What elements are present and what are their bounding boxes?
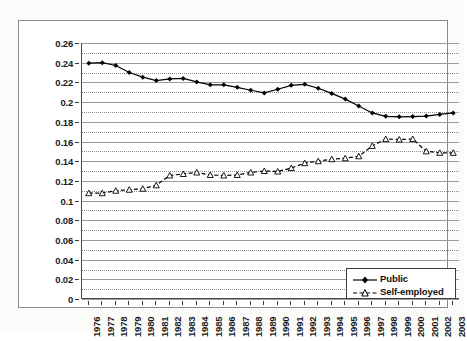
data-point-marker-diamond: [356, 104, 361, 109]
x-axis-tick-label: 1987: [240, 317, 251, 337]
data-point-marker-diamond: [370, 110, 375, 115]
y-axis-tick-mark: [75, 142, 79, 143]
x-axis-tick-mark: [88, 301, 89, 305]
x-axis-tick-mark: [182, 301, 183, 305]
legend-label-public: Public: [380, 273, 408, 284]
x-axis-tick-mark: [398, 301, 399, 305]
legend-marker-open-triangle-icon: [352, 285, 378, 297]
y-axis-tick-label: 0.2: [60, 97, 73, 108]
x-axis-tick-mark: [101, 301, 102, 305]
y-axis-tick-label: 0.02: [55, 274, 73, 285]
data-point-marker-diamond: [140, 75, 145, 80]
y-axis-tick-label: 0.18: [55, 116, 73, 127]
y-axis-tick-label: 0.04: [55, 254, 73, 265]
x-axis-tick-mark: [425, 301, 426, 305]
series-line: [89, 63, 454, 117]
x-axis-tick-label: 1991: [294, 317, 305, 337]
data-point-marker-diamond: [194, 79, 199, 84]
data-point-marker-diamond: [329, 91, 334, 96]
y-axis-tick-label: 0.24: [55, 57, 73, 68]
y-axis-tick-label: 0.1: [60, 195, 73, 206]
series-line: [89, 139, 454, 193]
y-axis-tick-label: 0.14: [55, 156, 73, 167]
x-axis-tick-label: 1983: [186, 317, 197, 337]
y-axis-tick-mark: [75, 220, 79, 221]
data-point-marker-triangle: [383, 136, 389, 142]
data-point-marker-diamond: [383, 114, 388, 119]
y-axis-tick-mark: [75, 63, 79, 64]
x-axis-tick-mark: [358, 301, 359, 305]
x-axis-tick-mark: [155, 301, 156, 305]
data-point-marker-diamond: [289, 83, 294, 88]
x-axis-tick-mark: [115, 301, 116, 305]
x-axis-tick-mark: [439, 301, 440, 305]
data-point-marker-diamond: [397, 114, 402, 119]
x-axis-labels: 1976197719781979198019811982198319841985…: [81, 301, 459, 341]
data-point-marker-triangle: [248, 169, 254, 175]
y-axis-tick-mark: [75, 43, 79, 44]
x-axis-tick-mark: [263, 301, 264, 305]
data-point-marker-diamond: [154, 78, 159, 83]
x-axis-tick-label: 2002: [442, 317, 453, 337]
x-axis-tick-label: 1998: [388, 317, 399, 337]
data-point-marker-diamond: [248, 88, 253, 93]
series-layer: [82, 43, 460, 299]
y-axis-tick-mark: [75, 240, 79, 241]
x-axis-tick-label: 1992: [307, 317, 318, 337]
data-point-marker-diamond: [167, 76, 172, 81]
y-axis-tick-label: 0.22: [55, 77, 73, 88]
data-point-marker-diamond: [262, 90, 267, 95]
y-axis-labels: 00.020.040.060.080.10.120.140.160.180.20…: [19, 43, 79, 299]
x-axis-tick-label: 2003: [456, 317, 467, 337]
data-point-marker-diamond: [181, 76, 186, 81]
x-axis-tick-label: 1999: [402, 317, 413, 337]
y-axis-tick-label: 0.08: [55, 215, 73, 226]
y-axis-tick-label: 0.16: [55, 136, 73, 147]
plot-area-wrapper: [81, 43, 459, 299]
x-axis-tick-mark: [277, 301, 278, 305]
chart-legend: Public Self-employed: [346, 268, 456, 299]
y-axis-tick-mark: [75, 82, 79, 83]
series-public: [86, 60, 456, 119]
x-axis-tick-label: 1988: [253, 317, 264, 337]
y-axis-tick-mark: [75, 122, 79, 123]
x-axis-tick-label: 1982: [172, 317, 183, 337]
series-self-employed: [86, 136, 457, 196]
data-point-marker-diamond: [302, 82, 307, 87]
x-axis-tick-mark: [128, 301, 129, 305]
x-axis-tick-mark: [196, 301, 197, 305]
x-axis-tick-label: 2000: [415, 317, 426, 337]
data-point-marker-diamond: [235, 85, 240, 90]
y-axis-tick-label: 0: [68, 294, 73, 305]
plot-area: [81, 43, 459, 299]
x-axis-tick-label: 1979: [132, 317, 143, 337]
x-axis-tick-label: 1997: [375, 317, 386, 337]
data-point-marker-diamond: [208, 82, 213, 87]
x-axis-tick-label: 1978: [118, 317, 129, 337]
x-axis-tick-mark: [452, 301, 453, 305]
x-axis-tick-mark: [142, 301, 143, 305]
x-axis-tick-mark: [223, 301, 224, 305]
x-axis-tick-label: 1993: [321, 317, 332, 337]
x-axis-tick-mark: [236, 301, 237, 305]
x-axis-tick-mark: [209, 301, 210, 305]
x-axis-tick-mark: [371, 301, 372, 305]
x-axis-tick-label: 1981: [159, 317, 170, 337]
data-point-marker-triangle: [423, 148, 429, 154]
data-point-marker-diamond: [437, 112, 442, 117]
x-axis-tick-mark: [331, 301, 332, 305]
x-axis-tick-mark: [304, 301, 305, 305]
data-point-marker-triangle: [153, 182, 159, 188]
data-point-marker-diamond: [410, 114, 415, 119]
gridline-major: [82, 299, 459, 300]
x-axis-tick-mark: [250, 301, 251, 305]
legend-item-self-employed: Self-employed: [352, 285, 444, 297]
y-axis-tick-label: 0.26: [55, 38, 73, 49]
x-axis-tick-label: 1985: [213, 317, 224, 337]
legend-item-public: Public: [352, 272, 408, 284]
x-axis-tick-mark: [412, 301, 413, 305]
y-axis-tick-mark: [75, 161, 79, 162]
data-point-marker-diamond: [86, 61, 91, 66]
x-axis-tick-label: 1977: [105, 317, 116, 337]
y-axis-tick-mark: [75, 102, 79, 103]
